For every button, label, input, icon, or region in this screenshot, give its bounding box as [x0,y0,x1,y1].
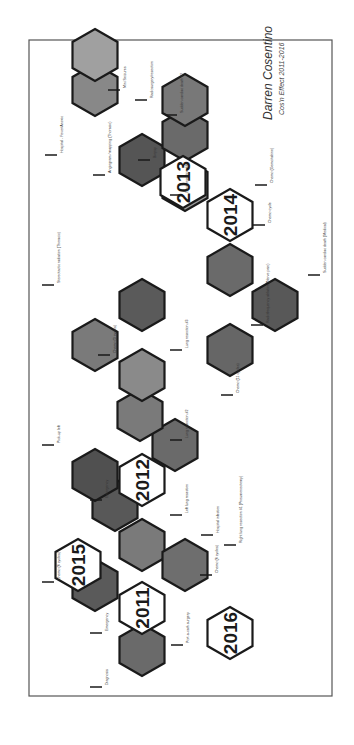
author-name: Darren Cosentino [261,26,275,120]
event-label: Hospital - Fever/Anoxic [60,116,64,153]
event-label: Radiosurgery/resection [150,61,154,98]
year-label: 2015 [68,543,89,586]
event-label: Chemo (Gemcitabine) [270,148,274,183]
event-label: Port-a-cath surgery [186,612,190,643]
year-label: 2014 [220,193,241,236]
poster-subtitle: Cos'n Effect 2011-2016 [278,42,285,115]
event-label: Chemo (3 cycles) [113,325,117,353]
year-label: 2016 [220,612,241,654]
event-label: Emergency [105,613,109,631]
event-label: Hospital infection [216,506,220,533]
event-label: Sudden cardiac death #2 [180,73,184,113]
event-label: Chemo cycle [268,202,272,223]
year-label: 2012 [132,459,153,501]
event-label: Diagnosis [105,669,109,685]
timeline-poster: 201120122013201420152016 DiagnosisPort-a… [0,0,354,745]
event-label: Lung resection #3 [185,319,189,348]
event-label: Chemo (6 cycles) [215,545,219,573]
event-label: Left lung resection [185,484,189,513]
event-label: Angiogram / mapping (Thoracic) [108,122,112,173]
event-label: Emergency [105,480,109,498]
year-label: 2011 [132,587,153,629]
event-label: Mini Seizures [123,66,127,88]
event-label: Radiofrequency ablation (Nerve pain) [266,263,270,323]
event-label: Right lung resection #1 (Pneumonectomy) [239,476,243,543]
event-label: Chemo (11 cycles) [236,363,240,393]
event-label: Stereotactic radiation (Thoracic) [57,232,61,283]
event-label: Lung resection #4 [185,164,189,193]
event-label: Pick-up left [57,425,61,443]
event-label: Biopsy [153,147,157,158]
event-label: Lung resection #2 [185,409,189,438]
year-label: 2013 [173,161,194,203]
poster-stage: 201120122013201420152016 DiagnosisPort-a… [0,0,354,745]
event-label: Chemo (6 cycles) [57,552,61,580]
event-label: Sudden cardiac death (Medical) [323,222,327,273]
